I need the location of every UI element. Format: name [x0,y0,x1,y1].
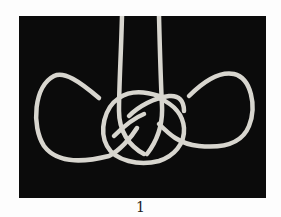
figure-caption: 1 [0,199,281,215]
knot-rope-illustration [19,16,266,198]
knot-photo [19,16,266,198]
